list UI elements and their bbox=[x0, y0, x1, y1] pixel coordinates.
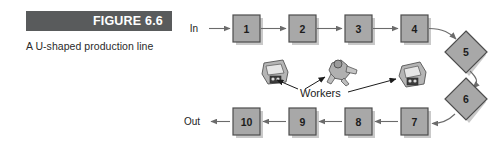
station-9-label: 9 bbox=[300, 116, 306, 128]
arrow-6-to-7 bbox=[432, 114, 455, 124]
station-8-label: 8 bbox=[356, 116, 362, 128]
station-9[interactable]: 9 bbox=[289, 108, 316, 135]
station-7[interactable]: 7 bbox=[401, 108, 428, 135]
station-4-label: 4 bbox=[412, 23, 418, 35]
station-6-label: 6 bbox=[463, 93, 469, 105]
station-1-label: 1 bbox=[244, 23, 250, 35]
arrow-4-to-5 bbox=[429, 29, 456, 40]
worker-center-icon bbox=[327, 60, 357, 86]
production-line-diagram: 1 2 3 4 5 6 bbox=[0, 0, 501, 141]
diagram-canvas: 1 2 3 4 5 6 bbox=[0, 0, 501, 141]
station-6[interactable]: 6 bbox=[445, 78, 487, 120]
station-5[interactable]: 5 bbox=[445, 31, 487, 73]
station-2-label: 2 bbox=[300, 23, 306, 35]
station-1[interactable]: 1 bbox=[233, 15, 260, 42]
station-2[interactable]: 2 bbox=[289, 15, 316, 42]
station-5-label: 5 bbox=[463, 46, 469, 58]
station-8[interactable]: 8 bbox=[345, 108, 372, 135]
workers-label: Workers bbox=[300, 87, 341, 99]
out-label: Out bbox=[184, 116, 200, 127]
worker-left-icon bbox=[262, 60, 288, 84]
station-3-label: 3 bbox=[356, 23, 362, 35]
worker-right-icon bbox=[399, 62, 426, 87]
station-7-label: 7 bbox=[412, 116, 418, 128]
arrow-workers-to-left bbox=[277, 80, 298, 89]
station-10[interactable]: 10 bbox=[233, 108, 260, 135]
station-10-label: 10 bbox=[241, 116, 253, 128]
in-label: In bbox=[190, 23, 198, 34]
station-3[interactable]: 3 bbox=[345, 15, 372, 42]
station-4[interactable]: 4 bbox=[401, 15, 428, 42]
arrow-workers-to-right bbox=[348, 79, 396, 92]
